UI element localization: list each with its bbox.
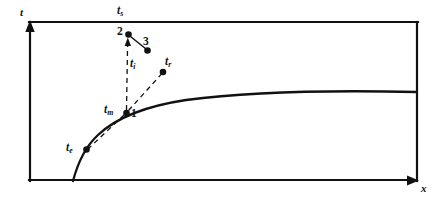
event-point-markers <box>83 31 166 153</box>
label-t-s: ts <box>117 5 123 17</box>
label-point-2: 2 <box>117 26 123 38</box>
point-marker-3 <box>144 47 151 54</box>
figure-root: t x ts 2 3 ti tr tm 1 te <box>0 0 442 203</box>
point-marker-1 <box>123 110 130 117</box>
label-t-s-sub: s <box>120 9 123 18</box>
point-marker-te <box>83 146 90 153</box>
spacetime-diagram-svg <box>0 0 442 203</box>
axis-arrowheads <box>25 20 419 185</box>
plot-frame <box>29 22 418 181</box>
point-marker-tr <box>160 69 167 76</box>
t-i-arrow-icon <box>125 38 131 47</box>
label-t-r-sub: r <box>168 60 171 69</box>
segment-t-i-vertical <box>127 44 128 110</box>
label-t-r: tr <box>165 56 171 68</box>
connector-segments <box>89 37 162 149</box>
t-axis-label: t <box>20 7 23 18</box>
x-axis-label: x <box>421 183 427 194</box>
point-marker-2 <box>125 31 132 38</box>
x-axis-label-text: x <box>421 182 427 194</box>
label-point-3: 3 <box>143 36 149 48</box>
label-t-i-sub: i <box>133 62 135 71</box>
label-t-e-sub: e <box>69 146 72 155</box>
t-axis-label-text: t <box>20 6 23 18</box>
label-point-1: 1 <box>131 108 137 120</box>
label-point-2-text: 2 <box>117 25 123 37</box>
label-point-1-text: 1 <box>131 107 137 119</box>
worldline-curve <box>73 91 417 181</box>
label-t-m-sub: m <box>107 108 113 117</box>
label-t-m: tm <box>104 104 113 116</box>
label-t-i: ti <box>130 58 135 70</box>
label-t-e: te <box>66 142 73 154</box>
label-point-3-text: 3 <box>143 35 149 47</box>
